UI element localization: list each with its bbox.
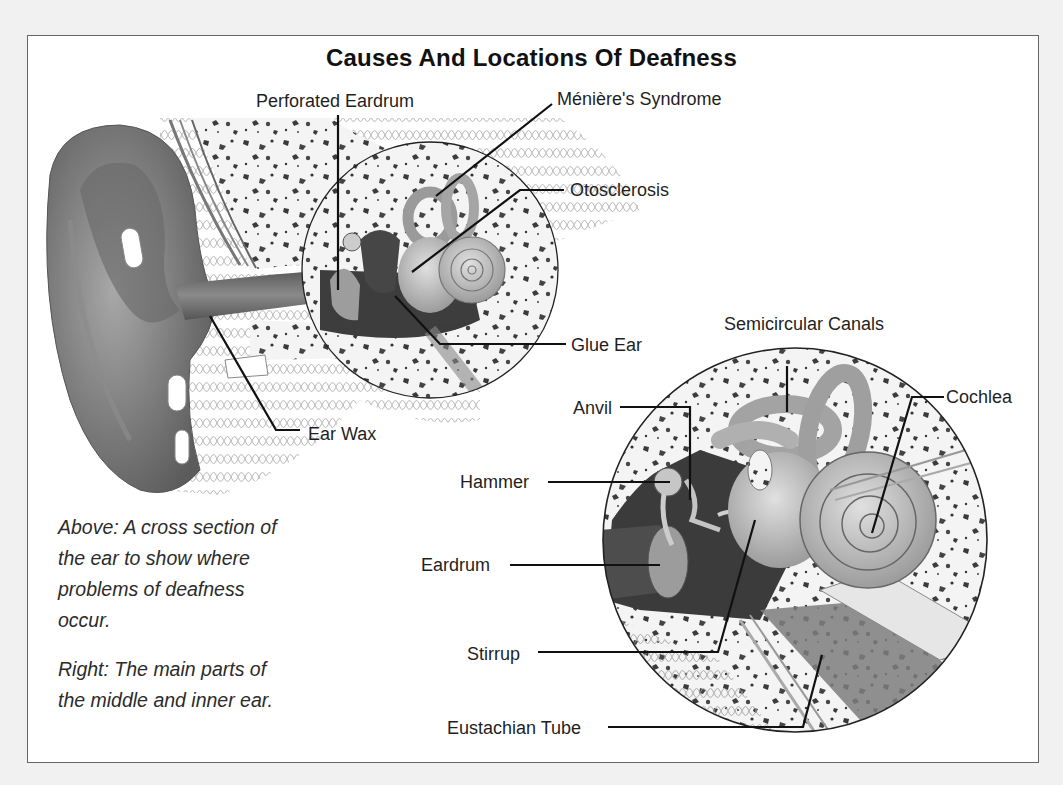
label-eardrum: Eardrum <box>421 556 490 574</box>
label-cochlea: Cochlea <box>946 388 1012 406</box>
label-menieres-syndrome: Ménière's Syndrome <box>557 90 722 108</box>
label-perforated-eardrum: Perforated Eardrum <box>256 92 414 110</box>
caption-right-line: the middle and inner ear. <box>58 685 273 716</box>
caption-above: Above: A cross section of the ear to sho… <box>58 512 277 636</box>
caption-above-line: the ear to show where <box>58 543 277 574</box>
caption-right: Right: The main parts of the middle and … <box>58 654 273 716</box>
label-anvil: Anvil <box>573 399 612 417</box>
label-eustachian-tube: Eustachian Tube <box>447 719 581 737</box>
caption-above-line: Above: A cross section of <box>58 512 277 543</box>
label-stirrup: Stirrup <box>467 645 520 663</box>
label-glue-ear: Glue Ear <box>571 336 642 354</box>
caption-above-line: problems of deafness <box>58 574 277 605</box>
label-semicircular-canals: Semicircular Canals <box>724 315 884 333</box>
label-hammer: Hammer <box>460 473 529 491</box>
label-otosclerosis: Otosclerosis <box>570 181 669 199</box>
label-ear-wax: Ear Wax <box>308 425 376 443</box>
caption-above-line: occur. <box>58 605 277 636</box>
caption-right-line: Right: The main parts of <box>58 654 273 685</box>
